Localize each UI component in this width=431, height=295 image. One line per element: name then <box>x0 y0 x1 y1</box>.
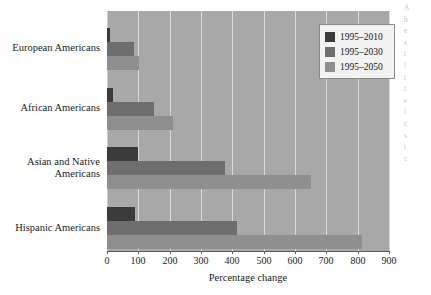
x-tick-label-400: 400 <box>225 255 240 266</box>
x-tick-400 <box>232 251 233 254</box>
page-text-line: t <box>404 48 431 60</box>
bar <box>107 147 138 161</box>
category-label-european-americans: European Americans <box>12 42 100 54</box>
x-tick-label-900: 900 <box>382 255 397 266</box>
legend-item-1995-2030: 1995–2030 <box>325 44 389 59</box>
x-tick-500 <box>264 251 265 254</box>
gridline-200 <box>170 11 171 251</box>
legend-swatch-icon-1995-2010 <box>325 32 335 42</box>
legend: 1995–2010 1995–2030 1995–2050 <box>319 24 395 79</box>
bar <box>107 175 311 189</box>
bar <box>107 161 225 175</box>
category-label-asian-and-native-americans: Asian and Native Americans <box>27 156 100 180</box>
page-text-line: s <box>404 37 431 49</box>
page-text-line: e <box>404 95 431 107</box>
page-text-line: c <box>404 118 431 130</box>
page-text-line: s <box>404 130 431 142</box>
legend-swatch-icon-1995-2030 <box>325 47 335 57</box>
page-text-line: t <box>404 141 431 153</box>
bar-chart-figure: Ahestlttelcstc European Americans Africa… <box>0 0 431 295</box>
x-tick-0 <box>107 251 108 254</box>
bar <box>107 207 135 221</box>
bar <box>107 88 113 102</box>
page-text-line: c <box>404 153 431 165</box>
bar <box>107 28 110 42</box>
bar <box>107 102 154 116</box>
page-text-bleed: Ahestlttelcstc <box>404 2 431 293</box>
gridline-300 <box>201 11 202 251</box>
bar <box>107 116 173 130</box>
x-tick-label-200: 200 <box>163 255 178 266</box>
x-tick-100 <box>138 251 139 254</box>
category-label-hispanic-americans: Hispanic Americans <box>15 222 100 234</box>
gridline-600 <box>295 11 296 251</box>
x-tick-300 <box>201 251 202 254</box>
x-tick-label-800: 800 <box>351 255 366 266</box>
x-tick-label-700: 700 <box>319 255 334 266</box>
x-tick-label-0: 0 <box>105 255 110 266</box>
x-tick-700 <box>326 251 327 254</box>
legend-label-1995-2010: 1995–2010 <box>340 32 383 42</box>
x-axis-line <box>107 251 389 252</box>
bar <box>107 221 237 235</box>
category-label-african-americans: African Americans <box>20 102 100 114</box>
page-text-line: t <box>404 72 431 84</box>
x-tick-label-500: 500 <box>257 255 272 266</box>
x-axis-title: Percentage change <box>107 272 389 283</box>
bar <box>107 235 362 249</box>
x-tick-200 <box>170 251 171 254</box>
gridline-500 <box>264 11 265 251</box>
legend-item-1995-2050: 1995–2050 <box>325 59 389 74</box>
x-tick-label-600: 600 <box>288 255 303 266</box>
page-text-line: A <box>404 2 431 14</box>
legend-item-1995-2010: 1995–2010 <box>325 29 389 44</box>
page-text-line: l <box>404 60 431 72</box>
legend-label-1995-2030: 1995–2030 <box>340 47 383 57</box>
category-axis-labels: European Americans African Americans Asi… <box>0 11 104 251</box>
x-tick-900 <box>389 251 390 254</box>
bar <box>107 42 134 56</box>
x-tick-label-100: 100 <box>131 255 146 266</box>
bar <box>107 56 139 70</box>
gridline-100 <box>138 11 139 251</box>
legend-swatch-icon-1995-2050 <box>325 62 335 72</box>
x-tick-800 <box>358 251 359 254</box>
page-text-line: l <box>404 106 431 118</box>
x-tick-600 <box>295 251 296 254</box>
page-text-line: e <box>404 25 431 37</box>
page-text-line: t <box>404 83 431 95</box>
legend-label-1995-2050: 1995–2050 <box>340 62 383 72</box>
x-tick-label-300: 300 <box>194 255 209 266</box>
gridline-400 <box>232 11 233 251</box>
page-text-line: h <box>404 14 431 26</box>
